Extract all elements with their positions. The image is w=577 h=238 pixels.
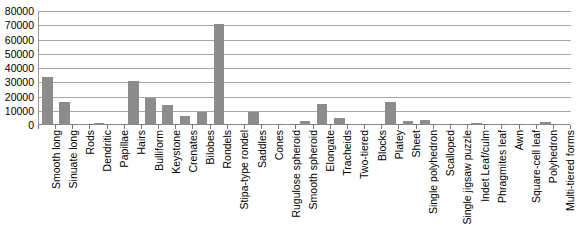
- x-tick: [501, 125, 502, 129]
- bar: [128, 81, 139, 125]
- x-tick: [227, 125, 228, 129]
- x-tick: [89, 125, 90, 129]
- phytolith-morphotype-bar-chart: 0100002000030000400005000060000700008000…: [0, 0, 577, 238]
- x-category-label: Sinuate long: [68, 130, 79, 188]
- y-tick-label: 30000: [5, 77, 34, 87]
- x-tick: [381, 125, 382, 129]
- x-category-label: Single polyhedron: [428, 130, 439, 214]
- x-axis-category-labels: Smooth longSinuate longRodsDendriticPapi…: [38, 130, 571, 238]
- x-tick: [398, 125, 399, 129]
- x-tick: [450, 125, 451, 129]
- x-category-label: Keystone: [171, 130, 182, 174]
- x-tick: [175, 125, 176, 129]
- x-tick: [330, 125, 331, 129]
- x-category-label: Blocks: [377, 130, 388, 161]
- bar: [59, 102, 70, 125]
- x-tick: [55, 125, 56, 129]
- x-category-label: Awn: [514, 130, 525, 150]
- x-tick: [433, 125, 434, 129]
- x-tick: [519, 125, 520, 129]
- x-tick: [278, 125, 279, 129]
- x-tick: [536, 125, 537, 129]
- y-tick-label: 0: [28, 120, 34, 130]
- x-tick: [467, 125, 468, 129]
- y-tick-label: 20000: [5, 92, 34, 102]
- bar: [180, 116, 191, 125]
- x-category-label: Multi-tiered forms: [565, 130, 576, 211]
- x-category-label: Dendritic: [102, 130, 113, 171]
- x-category-label: Hairs: [136, 130, 147, 155]
- x-tick: [107, 125, 108, 129]
- x-tick: [141, 125, 142, 129]
- x-category-label: Scalloped: [445, 130, 456, 176]
- bar: [317, 104, 328, 125]
- x-tick: [553, 125, 554, 129]
- x-category-label: Tracheids: [342, 130, 353, 176]
- x-category-label: Smooth spheroid: [308, 130, 319, 209]
- bar: [197, 112, 208, 125]
- x-category-label: Bilobes: [205, 130, 216, 164]
- x-category-label: Two-tiered: [359, 130, 370, 179]
- y-axis: 0100002000030000400005000060000700008000…: [0, 0, 36, 135]
- x-tick: [72, 125, 73, 129]
- x-tick: [158, 125, 159, 129]
- bar: [42, 77, 53, 125]
- bars-group: [39, 11, 571, 125]
- x-tick: [244, 125, 245, 129]
- y-tick-label: 70000: [5, 20, 34, 30]
- x-category-label: Indet Leaf/culm: [480, 130, 491, 202]
- x-category-label: Bulliform: [154, 130, 165, 171]
- x-tick: [192, 125, 193, 129]
- bar: [248, 112, 259, 125]
- x-category-label: Smooth long: [51, 130, 62, 189]
- x-tick: [124, 125, 125, 129]
- x-category-label: Rugulose spheroid: [291, 130, 302, 218]
- x-category-label: Elongate: [325, 130, 336, 171]
- x-category-label: Sheet: [411, 130, 422, 157]
- y-tick-label: 50000: [5, 49, 34, 59]
- bar: [145, 98, 156, 125]
- x-category-label: Phragmites leaf: [497, 130, 508, 203]
- x-category-label: Rods: [85, 130, 96, 155]
- x-category-label: Saddles: [257, 130, 268, 168]
- plot-area: [38, 11, 570, 125]
- x-tick: [295, 125, 296, 129]
- x-category-label: Square-cell leaf: [531, 130, 542, 203]
- x-category-label: Papillae: [119, 130, 130, 167]
- bar: [334, 118, 345, 125]
- x-category-label: Polyhedron: [548, 130, 559, 183]
- x-tick: [364, 125, 365, 129]
- y-tick-label: 40000: [5, 63, 34, 73]
- x-category-label: Rondels: [222, 130, 233, 169]
- x-tick: [484, 125, 485, 129]
- x-tick: [416, 125, 417, 129]
- bar: [385, 102, 396, 125]
- y-tick-label: 10000: [5, 106, 34, 116]
- x-category-label: Stipa-type rondel: [239, 130, 250, 209]
- x-category-label: Single jigsaw puzzle: [462, 130, 473, 225]
- x-tick: [347, 125, 348, 129]
- y-tick-label: 80000: [5, 6, 34, 16]
- x-category-label: Cones: [274, 130, 285, 160]
- y-tick-label: 60000: [5, 35, 34, 45]
- x-tick: [261, 125, 262, 129]
- x-tick: [38, 125, 39, 129]
- x-category-label: Crenates: [188, 130, 199, 173]
- x-tick: [210, 125, 211, 129]
- x-category-label: Platey: [394, 130, 405, 159]
- bar: [214, 24, 225, 125]
- x-tick: [313, 125, 314, 129]
- bar: [162, 105, 173, 125]
- x-tick: [570, 125, 571, 129]
